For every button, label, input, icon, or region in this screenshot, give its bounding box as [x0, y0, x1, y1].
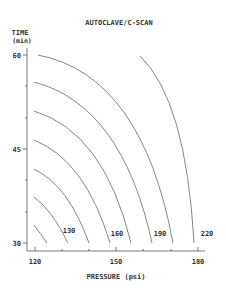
contour-line — [34, 169, 89, 243]
contour-line — [34, 225, 47, 243]
contour-line — [38, 55, 173, 243]
contour-line — [34, 111, 131, 243]
contour-label: 130 — [63, 227, 76, 235]
x-tick-label: 150 — [110, 258, 123, 266]
contour-label: 160 — [111, 230, 124, 238]
axes — [23, 48, 205, 251]
y-tick-label: 60 — [13, 52, 21, 60]
contour-lines — [34, 55, 194, 243]
y-axis-unit: (min) — [12, 37, 32, 45]
contour-label: 220 — [201, 230, 214, 238]
y-tick-label: 45 — [13, 146, 21, 154]
x-axis-label: PRESSURE (psi) — [86, 273, 145, 281]
x-tick-label: 120 — [29, 258, 42, 266]
contour-chart: AUTOCLAVE/C-SCAN TIME (min) 60 45 30 120… — [0, 0, 226, 297]
contour-line — [34, 82, 152, 243]
y-axis-label: TIME — [12, 29, 29, 37]
contour-label: 190 — [154, 230, 167, 238]
y-tick-label: 30 — [13, 240, 21, 248]
chart-title: AUTOCLAVE/C-SCAN — [85, 19, 152, 27]
x-tick-label: 180 — [192, 258, 205, 266]
contour-line — [34, 197, 68, 243]
